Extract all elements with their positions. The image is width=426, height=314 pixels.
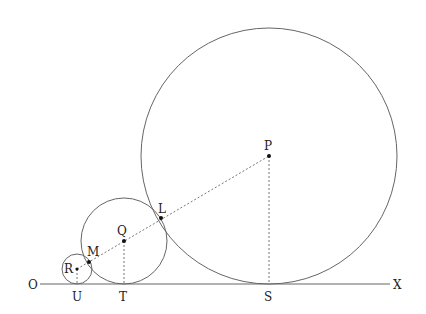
center-line (77, 156, 269, 269)
label-x: X (393, 278, 402, 292)
label-u: U (72, 290, 82, 304)
point-m (87, 260, 91, 264)
point-q (122, 239, 126, 243)
point-p (267, 154, 271, 158)
label-m: M (87, 245, 99, 259)
label-s: S (264, 290, 272, 304)
label-p: P (264, 139, 272, 153)
label-o: O (28, 278, 38, 292)
label-t: T (119, 290, 127, 304)
point-l (159, 216, 163, 220)
label-r: R (64, 262, 74, 276)
point-r (75, 267, 78, 270)
tangent-circles-diagram: O X P Q R L M U T S (0, 0, 426, 314)
label-q: Q (117, 224, 127, 238)
label-l: L (158, 202, 166, 216)
